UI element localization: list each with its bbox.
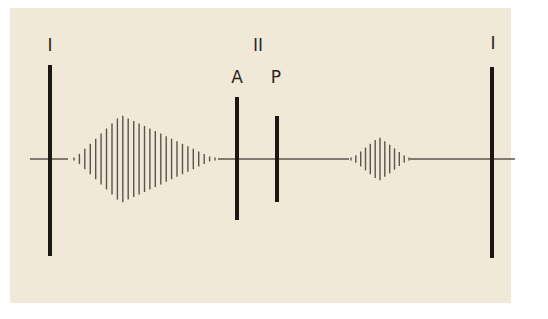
bar-I-left: [48, 65, 52, 256]
label-I-left: I: [47, 35, 52, 55]
label-A: A: [231, 67, 243, 87]
bar-P: [275, 116, 279, 202]
marker-bars: [48, 65, 494, 258]
marker-labels: I II A P I: [47, 33, 495, 87]
label-II: II: [253, 35, 263, 55]
label-P: P: [271, 67, 281, 87]
bar-A: [235, 97, 239, 220]
waveform-diagram: I II A P I: [0, 0, 548, 319]
label-I-right: I: [490, 33, 495, 53]
burst-1: [74, 116, 215, 202]
bar-I-right: [490, 67, 494, 258]
burst-2: [351, 138, 409, 181]
